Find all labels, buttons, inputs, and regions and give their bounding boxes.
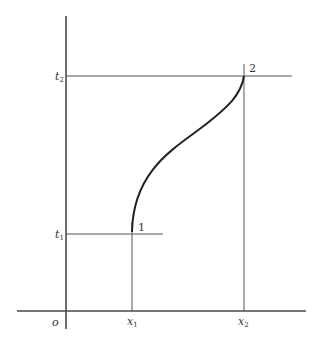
t2-label: t2 [55,70,64,84]
spacetime-diagram: o t2 t1 x1 x2 1 2 [0,0,320,344]
x2-label: x2 [238,315,249,329]
t1-label: t1 [55,228,64,242]
point-2-label: 2 [249,62,256,75]
origin-label: o [52,316,59,329]
x1-label: x1 [127,315,138,329]
point-1-label: 1 [138,221,145,234]
worldline-curve [132,76,244,232]
